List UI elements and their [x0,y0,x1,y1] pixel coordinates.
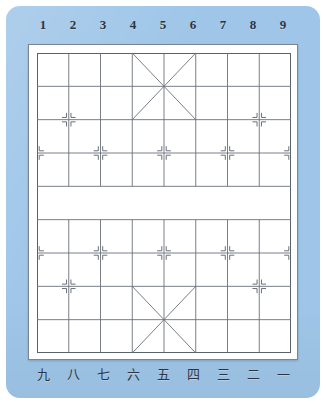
file-label-top-1: 1 [28,14,58,36]
file-label-bottom-5: 五 [148,364,178,386]
board-panel [28,44,298,360]
grid-area [37,53,291,353]
file-label-top-3: 3 [88,14,118,36]
file-label-bottom-3: 三 [208,364,238,386]
file-label-bottom-2: 二 [238,364,268,386]
file-label-top-6: 6 [178,14,208,36]
file-label-top-7: 7 [208,14,238,36]
file-label-bottom-7: 七 [88,364,118,386]
xiangqi-board-screenshot: 1 2 3 4 5 6 7 8 9 九 八 七 六 五 四 三 二 一 [0,0,326,404]
file-label-bottom-1: 一 [268,364,298,386]
file-label-top-5: 5 [148,14,178,36]
file-label-top-8: 8 [238,14,268,36]
board-grid-svg [37,53,291,353]
vertical-lines [37,53,291,353]
top-file-labels: 1 2 3 4 5 6 7 8 9 [28,14,298,36]
file-label-bottom-6: 六 [118,364,148,386]
file-label-bottom-8: 八 [58,364,88,386]
bottom-file-labels: 九 八 七 六 五 四 三 二 一 [28,364,298,386]
file-label-top-2: 2 [58,14,88,36]
file-label-top-9: 9 [268,14,298,36]
file-label-bottom-9: 九 [28,364,58,386]
file-label-top-4: 4 [118,14,148,36]
file-label-bottom-4: 四 [178,364,208,386]
